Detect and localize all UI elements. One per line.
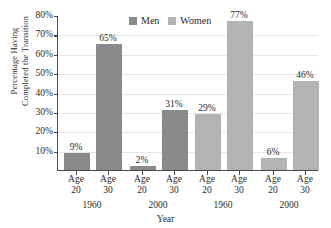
x-axis-age-word: Age: [256, 174, 290, 185]
y-axis-tick-label: 40%: [13, 89, 53, 99]
bar: [195, 114, 221, 170]
legend-entry-men: Men: [129, 15, 159, 26]
x-axis-age-word: Age: [157, 174, 191, 185]
bar: [227, 21, 253, 170]
x-axis-year-label: 2000: [128, 200, 188, 211]
y-axis-tick-mark: [54, 94, 58, 95]
y-axis-tick-label: 10%: [13, 147, 53, 157]
bar-chart: Percentage Having Completed the Transiti…: [0, 0, 331, 228]
bar: [293, 81, 319, 170]
legend-entry-women: Women: [168, 15, 211, 26]
x-axis-age-number: 30: [222, 185, 256, 196]
legend-swatch-men-icon: [129, 17, 137, 25]
x-axis-age-number: 30: [288, 185, 322, 196]
y-axis-tick-label: 50%: [13, 69, 53, 79]
x-axis-age-word: Age: [222, 174, 256, 185]
x-axis-age-label: Age20: [59, 174, 93, 196]
x-axis-age-number: 20: [59, 185, 93, 196]
x-axis-age-label: Age30: [91, 174, 125, 196]
y-axis-tick-label: 70%: [13, 30, 53, 40]
bar: [96, 44, 122, 170]
y-axis-tick-mark: [54, 132, 58, 133]
y-axis-tick-mark: [54, 74, 58, 75]
x-axis-age-label: Age30: [222, 174, 256, 196]
bar-value-label: 65%: [89, 33, 127, 43]
x-axis-year-label: 2000: [259, 200, 319, 211]
chart-legend: Men Women: [129, 15, 211, 26]
legend-label-women: Women: [180, 15, 211, 26]
y-axis-tick-label: 80%: [13, 11, 53, 21]
bar-value-label: 29%: [188, 103, 226, 113]
bar-value-label: 9%: [57, 142, 95, 152]
x-axis-age-number: 20: [125, 185, 159, 196]
x-axis-age-label: Age30: [157, 174, 191, 196]
legend-swatch-women-icon: [168, 17, 176, 25]
bar: [261, 158, 287, 170]
x-axis-age-label: Age20: [125, 174, 159, 196]
y-axis-tick-label: 60%: [13, 50, 53, 60]
bar-value-label: 2%: [123, 155, 161, 165]
x-axis-age-label: Age20: [190, 174, 224, 196]
y-axis-tick-label: 30%: [13, 108, 53, 118]
x-axis-age-word: Age: [125, 174, 159, 185]
x-axis-age-number: 30: [157, 185, 191, 196]
bar: [130, 166, 156, 170]
x-axis-age-word: Age: [91, 174, 125, 185]
y-axis-tick-mark: [54, 152, 58, 153]
bar-value-label: 77%: [220, 10, 258, 20]
y-axis-tick-mark: [54, 16, 58, 17]
y-axis-tick-mark: [54, 55, 58, 56]
x-axis-age-word: Age: [190, 174, 224, 185]
x-axis-age-word: Age: [288, 174, 322, 185]
bar: [64, 153, 90, 170]
y-axis-tick-label: 20%: [13, 127, 53, 137]
bar: [162, 110, 188, 170]
x-axis-age-label: Age20: [256, 174, 290, 196]
x-axis-age-number: 30: [91, 185, 125, 196]
x-axis-age-label: Age30: [288, 174, 322, 196]
x-axis-title: Year: [0, 214, 331, 225]
x-axis-age-number: 20: [190, 185, 224, 196]
bar-value-label: 46%: [286, 70, 324, 80]
x-axis-year-label: 1960: [62, 200, 122, 211]
x-axis-age-word: Age: [59, 174, 93, 185]
x-axis-year-label: 1960: [193, 200, 253, 211]
y-axis-tick-mark: [54, 113, 58, 114]
bar-value-label: 6%: [254, 147, 292, 157]
legend-label-men: Men: [141, 15, 159, 26]
x-axis-age-number: 20: [256, 185, 290, 196]
y-axis-tick-mark: [54, 35, 58, 36]
